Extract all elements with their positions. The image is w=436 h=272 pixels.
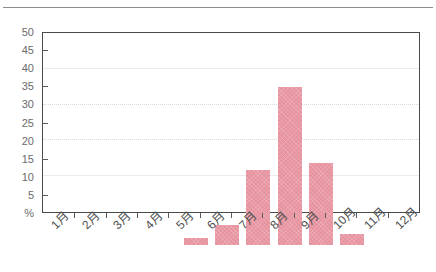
top-divider-rule [3,7,433,8]
y-tick-label: 20 [22,135,34,146]
y-tick-mark [42,50,48,51]
x-axis: 1月2月3月4月5月6月7月8月9月10月11月12月 [42,219,420,269]
y-tick-mark [42,86,48,87]
y-tick-mark [42,123,48,124]
y-tick-mark [42,159,48,160]
y-tick-label: 50 [22,27,34,38]
x-tick-mark [294,213,295,218]
y-tick-mark [42,195,48,196]
y-tick-label: 30 [22,99,34,110]
x-tick-mark [106,213,107,218]
y-tick-label: 5 [28,189,34,200]
y-tick-label: 25 [22,117,34,128]
x-tick-mark [325,213,326,218]
x-tick-mark [200,213,201,218]
y-tick-label: 40 [22,63,34,74]
y-tick-label: 35 [22,81,34,92]
x-tick-mark [74,213,75,218]
y-axis: %5101520253035404550 [0,32,38,213]
y-tick-label: 15 [22,153,34,164]
y-tick-label: 45 [22,45,34,56]
x-tick-mark [168,213,169,218]
plot-area [42,32,420,213]
bar-chart-figure: %5101520253035404550 1月2月3月4月5月6月7月8月9月1… [0,0,436,272]
x-tick-mark [231,213,232,218]
x-tick-mark [262,213,263,218]
y-tick-label: 10 [22,171,34,182]
bar-slot [431,66,436,245]
x-tick-mark [137,213,138,218]
y-tick-label: % [24,208,34,219]
